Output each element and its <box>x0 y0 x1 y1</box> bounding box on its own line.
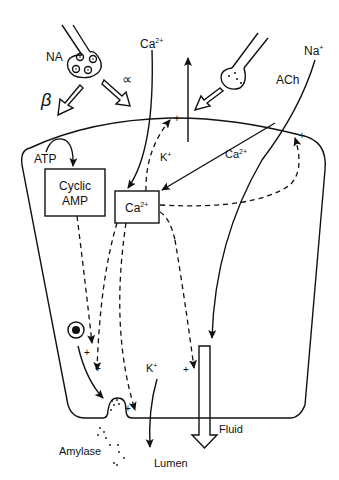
plus-sign: + <box>299 130 305 141</box>
fluid-arrow <box>192 346 217 448</box>
ach-label: ACh <box>276 73 299 87</box>
k-lumen-arrow <box>150 379 157 447</box>
plus-sign: + <box>95 363 101 374</box>
plus-sign: + <box>174 113 180 124</box>
ca-fluid-dashed-start <box>160 212 175 240</box>
ca-exocytosis-dashed-arrow <box>120 223 135 410</box>
amylase-label: Amylase <box>59 445 101 457</box>
amylase-granules <box>97 399 125 466</box>
cell-membrane <box>22 118 326 418</box>
ach-ca-arrow <box>162 123 275 190</box>
beta-label: β <box>40 90 51 110</box>
ach-nerve-terminal <box>195 33 268 110</box>
plus-sign: + <box>125 403 131 414</box>
beta-receptor-arrow <box>58 85 83 115</box>
ca-secretion-dashed-arrow <box>97 223 117 370</box>
k-lumen-label: K+ <box>146 362 157 374</box>
zymogen-granule <box>68 322 84 338</box>
ca-top-label: Ca2+ <box>140 37 163 51</box>
na-ion-label: Na+ <box>304 44 323 58</box>
na-nerve-terminal <box>62 25 101 78</box>
ca-fluid-dashed-arrow <box>175 240 194 368</box>
cyclic-amp-label-line1: Cyclic <box>59 179 91 193</box>
na-label: NA <box>46 50 63 64</box>
lumen-label: Lumen <box>154 457 188 469</box>
plus-sign: + <box>183 364 189 375</box>
alpha-label: ∝ <box>122 71 132 87</box>
ca-box-label: Ca2+ <box>125 201 148 215</box>
atp-label: ATP <box>34 152 56 166</box>
fluid-label: Fluid <box>219 423 243 435</box>
ca-in-label: Ca2+ <box>225 148 247 160</box>
plus-sign: + <box>84 347 90 358</box>
k-in-label: K+ <box>160 151 171 163</box>
cyclic-amp-label-line2: AMP <box>62 194 88 208</box>
na-path-arrow <box>212 60 315 338</box>
camp-dashed-arrow <box>77 216 92 343</box>
secretion-diagram: NA β ∝ ACh Ca2+ K+ + Na+ Ca2+ ATP Cyclic… <box>0 0 339 480</box>
